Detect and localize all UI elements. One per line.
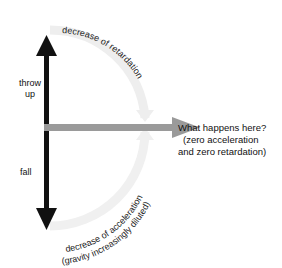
fall-label: fall xyxy=(20,167,32,178)
throw-up-label: throw up xyxy=(16,78,44,100)
throw-up-line2: up xyxy=(16,89,44,100)
horizontal-arrow xyxy=(44,117,200,138)
vertical-arrow xyxy=(36,35,57,230)
question-line1: What happens here? xyxy=(178,122,266,134)
question-line2: (zero acceleration xyxy=(178,134,266,146)
upper-arc-label: decrease of retardation xyxy=(62,25,145,80)
question-line3: and zero retardation) xyxy=(178,146,266,158)
throw-up-line1: throw xyxy=(16,78,44,89)
diagram-canvas: decrease of retardation decrease of acce… xyxy=(0,0,282,268)
question-label: What happens here? (zero acceleration an… xyxy=(178,122,266,158)
